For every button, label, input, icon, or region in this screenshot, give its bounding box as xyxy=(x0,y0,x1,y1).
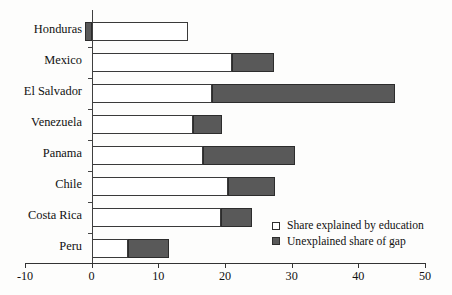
x-axis-tick xyxy=(425,263,426,268)
bar-row xyxy=(25,22,425,41)
x-axis-tick-label: -10 xyxy=(17,270,33,282)
legend-item-explained: Share explained by education xyxy=(272,220,424,232)
x-axis-tick-label: 40 xyxy=(352,270,364,282)
x-axis-tick-label: 10 xyxy=(152,270,164,282)
chart-legend: Share explained by education Unexplained… xyxy=(272,220,424,251)
bar-row xyxy=(25,84,425,103)
x-axis-tick-label: 30 xyxy=(286,270,298,282)
x-axis-tick xyxy=(25,263,26,268)
legend-item-unexplained: Unexplained share of gap xyxy=(272,236,424,248)
legend-label-unexplained: Unexplained share of gap xyxy=(287,236,406,248)
category-minor-tick xyxy=(88,233,92,234)
bar-segment-unexplained xyxy=(221,208,252,227)
legend-label-explained: Share explained by education xyxy=(287,220,424,232)
bar-row xyxy=(25,177,425,196)
bar-row xyxy=(25,146,425,165)
bar-segment-unexplained xyxy=(212,84,395,103)
bar-segment-unexplained xyxy=(193,115,222,134)
stacked-bar-chart: Honduras Mexico El Salvador Venezuela Pa… xyxy=(0,0,452,295)
bar-segment-explained xyxy=(92,208,221,227)
bar-segment-explained xyxy=(92,53,232,72)
x-axis-tick xyxy=(92,263,93,268)
x-axis-tick xyxy=(158,263,159,268)
legend-swatch-open-square-icon xyxy=(272,222,280,230)
bar-segment-explained xyxy=(92,115,193,134)
bar-segment-explained xyxy=(92,22,188,41)
x-axis-tick xyxy=(292,263,293,268)
category-minor-tick xyxy=(88,202,92,203)
category-minor-tick xyxy=(88,47,92,48)
bar-segment-explained xyxy=(92,239,128,258)
x-axis-tick xyxy=(225,263,226,268)
category-minor-tick xyxy=(88,140,92,141)
bar-segment-unexplained xyxy=(203,146,295,165)
bar-segment-unexplained xyxy=(85,22,92,41)
category-minor-tick xyxy=(88,78,92,79)
bar-segment-unexplained xyxy=(228,177,275,196)
x-axis-tick-label: 50 xyxy=(419,270,431,282)
bar-segment-explained xyxy=(92,177,228,196)
bar-segment-explained xyxy=(92,146,203,165)
bar-row xyxy=(25,53,425,72)
category-minor-tick xyxy=(88,109,92,110)
zero-baseline xyxy=(92,10,93,263)
category-minor-tick xyxy=(88,171,92,172)
bar-segment-unexplained xyxy=(128,239,169,258)
legend-swatch-filled-square-icon xyxy=(272,237,280,245)
bar-segment-explained xyxy=(92,84,212,103)
bar-row xyxy=(25,115,425,134)
bar-segment-unexplained xyxy=(232,53,274,72)
x-axis-tick-label: 20 xyxy=(219,270,231,282)
x-axis-tick-label: 0 xyxy=(89,270,95,282)
x-axis-tick xyxy=(358,263,359,268)
